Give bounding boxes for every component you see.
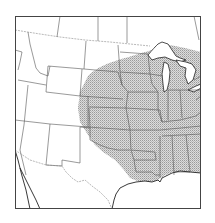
range-map [0, 0, 215, 223]
